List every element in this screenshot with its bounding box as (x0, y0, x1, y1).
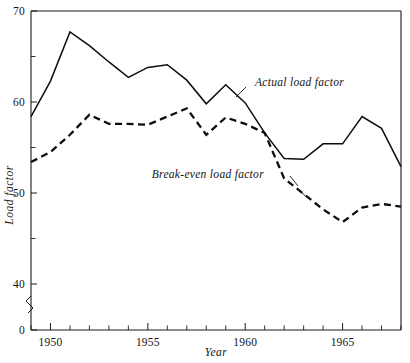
series-line-actual-load-factor (31, 32, 401, 167)
annotation-actual-load-factor: Actual load factor (254, 76, 344, 89)
load-factor-line-chart: 040506070 1950195519601965 Load factor Y… (0, 0, 410, 363)
y-axis-title: Load factor (3, 165, 16, 226)
x-tick-label-1950: 1950 (39, 336, 63, 348)
x-tick-group (31, 323, 401, 330)
y-tick-label-60: 60 (13, 96, 25, 108)
y-tick-label-40: 40 (13, 278, 25, 290)
series-line-break-even-load-factor (31, 108, 401, 222)
x-axis-title: Year (205, 346, 228, 358)
x-tick-label-group: 1950195519601965 (39, 336, 355, 348)
leader-line-actual (236, 87, 246, 97)
y-tick-label-0: 0 (19, 324, 25, 336)
chart-container: 040506070 1950195519601965 Load factor Y… (0, 0, 410, 363)
x-tick-label-1965: 1965 (331, 336, 355, 348)
x-tick-label-1955: 1955 (136, 336, 160, 348)
y-tick-label-70: 70 (13, 5, 25, 17)
y-axis-break-symbol (26, 296, 33, 313)
x-tick-label-1960: 1960 (233, 336, 257, 348)
annotation-break-even-load-factor: Break-even load factor (152, 168, 264, 181)
y-tick-group (31, 11, 37, 330)
